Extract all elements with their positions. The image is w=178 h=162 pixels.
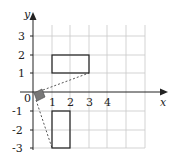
x-axis-label: x <box>160 96 167 109</box>
x-tick-1: 1 <box>49 96 56 109</box>
y-tick-2: 2 <box>18 49 25 62</box>
y-tick-neg3: -3 <box>12 142 23 155</box>
x-tick-2: 2 <box>67 96 74 109</box>
rectangle-a <box>52 55 89 73</box>
y-tick-neg1: -1 <box>12 105 23 118</box>
y-tick-3: 3 <box>18 30 25 43</box>
small-shaded-square <box>34 89 45 101</box>
coordinate-diagram: x y 0 1 2 3 4 3 2 1 -1 -2 -3 <box>0 0 178 162</box>
x-axis-arrow-icon <box>160 89 168 96</box>
y-axis-arrow-icon <box>30 12 37 20</box>
x-tick-4: 4 <box>104 96 111 109</box>
y-tick-neg2: -2 <box>12 124 23 137</box>
rectangle-b <box>52 111 70 148</box>
grid <box>33 25 145 148</box>
y-axis-label: y <box>23 8 31 21</box>
y-tick-1: 1 <box>18 67 25 80</box>
origin-label: 0 <box>24 92 31 105</box>
x-tick-3: 3 <box>86 96 93 109</box>
